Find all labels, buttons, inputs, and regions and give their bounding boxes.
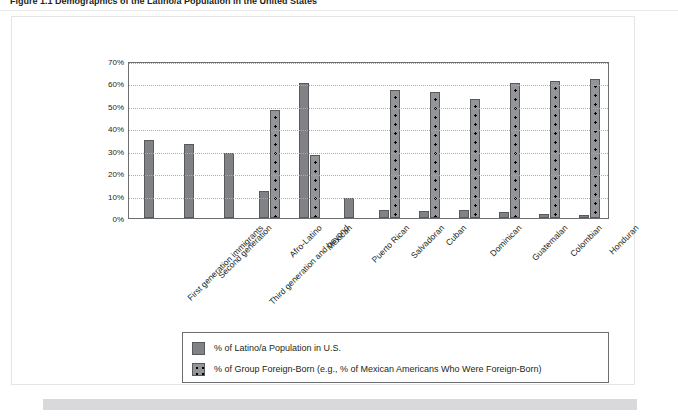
- bar-foreign-born: [430, 92, 440, 218]
- card-footer-band: [43, 399, 637, 410]
- legend-item-1: % of Group Foreign-Born (e.g., % of Mexi…: [192, 361, 541, 377]
- gridline: [129, 63, 608, 64]
- x-tick-label: Puerto Rican: [370, 223, 412, 265]
- bar-population: [224, 153, 234, 218]
- chart-area: 70%60%50%40%30%20%10%0% First generation…: [12, 17, 636, 386]
- bar-foreign-born: [390, 90, 400, 218]
- y-tick-label: 60%: [84, 80, 124, 89]
- y-tick-label: 40%: [84, 125, 124, 134]
- bar-population: [499, 212, 509, 218]
- legend-label-1: % of Group Foreign-Born (e.g., % of Mexi…: [214, 364, 541, 374]
- y-tick-label: 0%: [84, 215, 124, 224]
- plot-frame: [128, 62, 609, 219]
- y-tick-label: 10%: [84, 192, 124, 201]
- legend-label-0: % of Latino/a Population in U.S.: [214, 343, 341, 353]
- bar-population: [144, 140, 154, 219]
- x-axis-labels: First generation immigrantsSecond genera…: [128, 220, 609, 315]
- caption-divider: [0, 10, 678, 11]
- y-tick-label: 50%: [84, 102, 124, 111]
- bar-population: [459, 210, 469, 218]
- solid-gray-swatch-icon: [192, 342, 205, 355]
- legend-item-0: % of Latino/a Population in U.S.: [192, 340, 341, 356]
- bar-foreign-born: [470, 99, 480, 218]
- bar-population: [579, 215, 589, 218]
- x-tick-label: Honduran: [607, 223, 640, 256]
- dotted-gray-swatch-icon: [192, 363, 205, 376]
- bar-population: [184, 144, 194, 218]
- y-tick-label: 30%: [84, 147, 124, 156]
- gridline: [129, 198, 608, 199]
- bar-population: [419, 211, 429, 218]
- y-axis-labels: 70%60%50%40%30%20%10%0%: [80, 62, 124, 219]
- y-tick-label: 70%: [84, 58, 124, 67]
- x-tick-label: Second generation: [216, 223, 274, 281]
- bar-population: [344, 198, 354, 218]
- x-tick-label: Guatemalan: [530, 223, 570, 263]
- x-tick-label: Dominican: [488, 223, 523, 258]
- gridline: [129, 130, 608, 131]
- figure-card: 70%60%50%40%30%20%10%0% First generation…: [11, 16, 635, 385]
- gridline: [129, 175, 608, 176]
- gridline: [129, 108, 608, 109]
- y-tick-label: 20%: [84, 170, 124, 179]
- chart-legend: % of Latino/a Population in U.S. % of Gr…: [182, 332, 609, 383]
- bar-population: [379, 210, 389, 218]
- x-tick-label: Salvadoran: [408, 223, 445, 260]
- x-tick-label: Colombian: [568, 223, 604, 259]
- gridline: [129, 153, 608, 154]
- bar-foreign-born: [270, 110, 280, 218]
- bar-population: [259, 191, 269, 218]
- x-tick-label: Cuban: [443, 223, 468, 248]
- bar-population: [539, 214, 549, 218]
- figure-caption: Figure 1.1 Demographics of the Latino/a …: [10, 0, 317, 7]
- gridline: [129, 85, 608, 86]
- bar-foreign-born: [310, 155, 320, 218]
